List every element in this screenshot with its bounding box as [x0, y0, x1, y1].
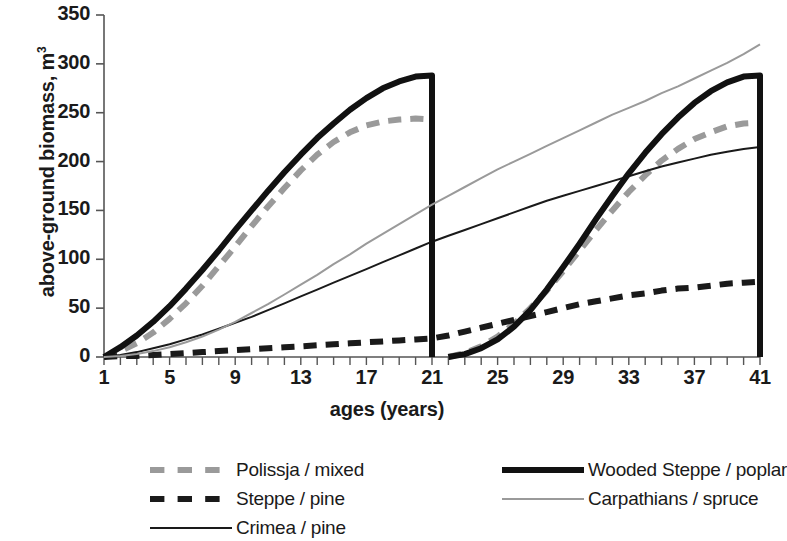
- y-axis-tick-label: 250: [36, 100, 90, 123]
- series-line: [104, 76, 432, 357]
- x-axis-tick-label: 41: [740, 366, 780, 389]
- x-axis-tick-label: 9: [215, 366, 255, 389]
- y-axis-tick-label: 100: [36, 246, 90, 269]
- x-axis-tick-label: 25: [478, 366, 518, 389]
- y-axis-tick-label: 50: [36, 295, 90, 318]
- y-axis-tick-label: 150: [36, 197, 90, 220]
- legend-item-label: Steppe / pine: [234, 488, 345, 510]
- legend-item: Polissja / mixed: [148, 455, 364, 484]
- legend-item: Carpathians / spruce: [500, 484, 787, 513]
- legend-key-icon: [148, 519, 234, 537]
- x-axis-ticks: [104, 357, 760, 365]
- data-series-group: [104, 44, 760, 357]
- y-axis-ticks: [96, 15, 104, 357]
- x-axis-tick-label: 21: [412, 366, 452, 389]
- legend-item: Steppe / pine: [148, 484, 364, 513]
- x-axis-title: ages (years): [0, 398, 774, 421]
- legend-item: Wooded Steppe / poplar: [500, 455, 787, 484]
- x-axis-tick-label: 13: [281, 366, 321, 389]
- legend-column-right: Wooded Steppe / poplarCarpathians / spru…: [500, 455, 787, 513]
- x-axis-tick-label: 33: [609, 366, 649, 389]
- chart-legend: Polissja / mixedSteppe / pineCrimea / pi…: [0, 455, 774, 541]
- series-line: [448, 123, 760, 358]
- y-axis-tick-label: 200: [36, 149, 90, 172]
- legend-item-label: Crimea / pine: [234, 517, 346, 539]
- y-axis-tick-label: 300: [36, 51, 90, 74]
- y-axis-tick-label: 350: [36, 2, 90, 25]
- legend-item: Crimea / pine: [148, 513, 364, 541]
- x-axis-tick-label: 1: [84, 366, 124, 389]
- x-axis-tick-label: 37: [674, 366, 714, 389]
- legend-column-left: Polissja / mixedSteppe / pineCrimea / pi…: [148, 455, 364, 541]
- plot-area: [0, 0, 774, 420]
- legend-key-icon: [500, 490, 586, 508]
- x-axis-tick-label: 5: [150, 366, 190, 389]
- x-axis-tick-label: 17: [346, 366, 386, 389]
- legend-key-icon: [148, 490, 234, 508]
- legend-key-icon: [500, 461, 586, 479]
- legend-item-label: Polissja / mixed: [234, 459, 364, 481]
- y-axis-tick-label: 0: [36, 344, 90, 367]
- legend-item-label: Carpathians / spruce: [586, 488, 758, 510]
- legend-item-label: Wooded Steppe / poplar: [586, 459, 787, 481]
- x-axis-tick-label: 29: [543, 366, 583, 389]
- legend-key-icon: [148, 461, 234, 479]
